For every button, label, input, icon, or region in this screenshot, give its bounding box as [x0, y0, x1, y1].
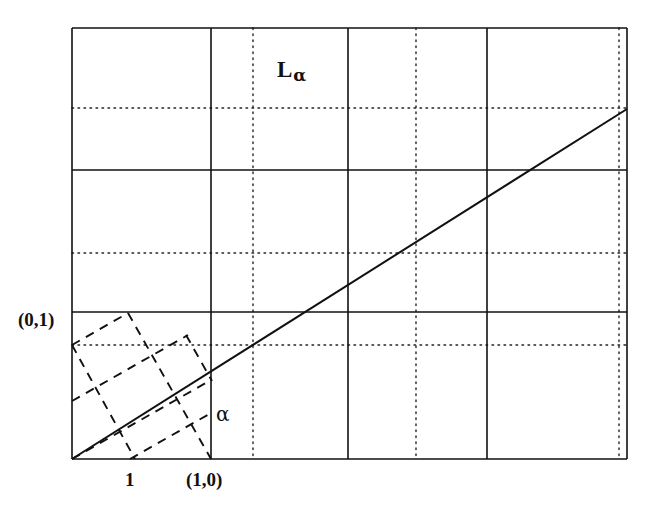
point-0-1-label: (0,1) [18, 310, 54, 329]
point-1-0-label: (1,0) [186, 470, 222, 489]
canvas-background [0, 0, 662, 515]
lattice-name-letter: L [277, 57, 292, 82]
figure-root: Lα (0,1) α 1 (1,0) [0, 0, 662, 515]
lattice-name-subscript: α [293, 65, 306, 85]
lattice-diagram-svg [0, 0, 662, 515]
lattice-name-label: Lα [277, 58, 306, 84]
alpha-label: α [216, 404, 230, 424]
axis-tick-one-label: 1 [125, 470, 135, 489]
